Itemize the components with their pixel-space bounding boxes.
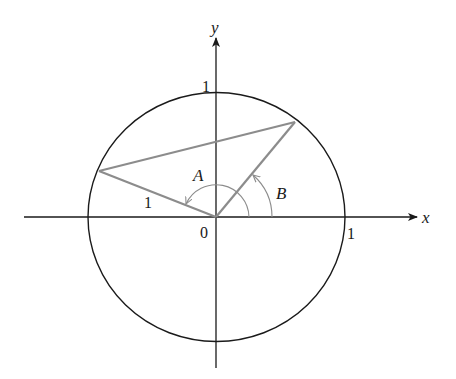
angle-b-arc [253,175,272,217]
y-tick-label: 1 [202,78,210,95]
segment-length-label: 1 [144,194,152,211]
chord [99,122,295,171]
y-axis-label: y [209,18,219,37]
angle-a-label: A [192,166,204,185]
x-axis-label: x [421,208,430,227]
origin-label: 0 [200,224,208,241]
unit-circle-diagram: y x 1 1 0 1 A B [0,0,456,379]
angle-b-label: B [276,184,287,203]
x-tick-label: 1 [347,225,355,242]
